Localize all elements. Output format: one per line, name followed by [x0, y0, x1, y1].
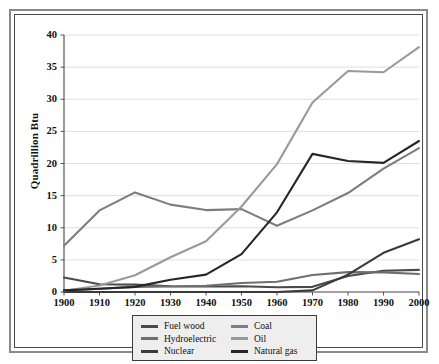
legend-swatch-icon: [231, 325, 248, 328]
figure-inner-frame: Quadrillion Btu 0510152025303540 1900191…: [14, 14, 423, 348]
legend-label: Natural gas: [254, 346, 298, 356]
legend-label: Hydroelectric: [164, 334, 216, 344]
legend-entry: Nuclear: [141, 345, 216, 358]
legend-label: Nuclear: [164, 346, 194, 356]
legend-swatch-icon: [231, 350, 248, 353]
legend-entry: Hydroelectric: [141, 333, 216, 346]
legend-label: Coal: [254, 321, 272, 331]
legend-column-right: CoalOilNatural gas: [231, 320, 298, 358]
legend-swatch-icon: [231, 337, 248, 340]
legend-swatch-icon: [141, 350, 158, 353]
legend-entry: Natural gas: [231, 345, 298, 358]
legend-swatch-icon: [141, 325, 158, 328]
legend-entry: Fuel wood: [141, 320, 216, 333]
figure-outer-frame: Quadrillion Btu 0510152025303540 1900191…: [9, 9, 428, 353]
data-series: [64, 47, 419, 292]
legend-entry: Oil: [231, 333, 298, 346]
chart-legend: Fuel woodHydroelectricNuclear CoalOilNat…: [132, 315, 317, 361]
legend-label: Oil: [254, 334, 266, 344]
legend-column-left: Fuel woodHydroelectricNuclear: [141, 320, 216, 358]
plot-canvas: [15, 15, 428, 353]
legend-swatch-icon: [141, 337, 158, 340]
legend-label: Fuel wood: [164, 321, 204, 331]
axis-lines: [61, 35, 420, 296]
line-chart: Quadrillion Btu 0510152025303540 1900191…: [15, 15, 428, 353]
legend-entry: Coal: [231, 320, 298, 333]
